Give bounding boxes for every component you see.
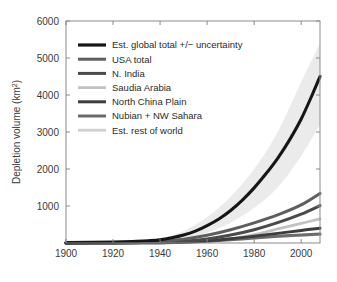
y-axis-title-tail: ) <box>11 80 22 83</box>
legend-label-saudia-arabia: Saudia Arabia <box>112 82 172 93</box>
legend-item-n-india: N. India <box>78 68 145 79</box>
chart-legend: Est. global total +/− uncertaintyUSA tot… <box>78 39 243 135</box>
legend-label-nubian-nw-sahara: Nubian + NW Sahara <box>112 110 203 121</box>
legend-label-north-china-plain: North China Plain <box>112 96 186 107</box>
legend-label-usa-total: USA total <box>112 54 152 65</box>
y-tick-label: 6000 <box>37 16 60 27</box>
legend-item-nubian-nw-sahara: Nubian + NW Sahara <box>78 110 203 121</box>
legend-item-saudia-arabia: Saudia Arabia <box>78 82 172 93</box>
y-axis-title-main: Depletion volume (km <box>11 87 22 184</box>
y-axis-title-group: Depletion volume (km2) <box>11 80 23 184</box>
x-tick-label: 2000 <box>290 248 313 259</box>
chart-figure: 190019201940196019802000 100020003000400… <box>0 0 337 282</box>
y-axis-title: Depletion volume (km2) <box>11 80 23 184</box>
legend-item-est-global-total-uncertainty: Est. global total +/− uncertainty <box>78 39 243 50</box>
y-tick-label: 2000 <box>37 164 60 175</box>
x-tick-label: 1900 <box>55 248 78 259</box>
legend-item-usa-total: USA total <box>78 54 152 65</box>
legend-label-n-india: N. India <box>112 68 145 79</box>
y-tick-label: 3000 <box>37 127 60 138</box>
depletion-volume-line-chart: 190019201940196019802000 100020003000400… <box>0 0 337 282</box>
legend-label-est-global-total-uncertainty: Est. global total +/− uncertainty <box>112 39 243 50</box>
x-tick-label: 1940 <box>149 248 172 259</box>
legend-item-north-china-plain: North China Plain <box>78 96 186 107</box>
legend-label-est-rest-of-world: Est. rest of world <box>112 125 183 136</box>
y-tick-label: 5000 <box>37 53 60 64</box>
x-tick-label: 1920 <box>102 248 125 259</box>
y-tick-label: 1000 <box>37 201 60 212</box>
y-tick-label: 4000 <box>37 90 60 101</box>
x-tick-label: 1980 <box>243 248 266 259</box>
legend-item-est-rest-of-world: Est. rest of world <box>78 125 183 136</box>
x-tick-label: 1960 <box>196 248 219 259</box>
